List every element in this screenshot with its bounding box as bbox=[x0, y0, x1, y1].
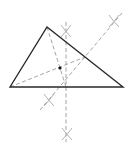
arc-mark-upper-right-icon bbox=[109, 15, 119, 27]
median-from-top-vertex bbox=[47, 27, 66, 87]
triangle-construction-diagram bbox=[0, 0, 136, 148]
arc-mark-bottom-icon bbox=[62, 128, 72, 140]
arc-mark-lower-left-icon bbox=[44, 94, 54, 106]
median-from-left-vertex bbox=[10, 57, 85, 87]
centroid-point bbox=[58, 66, 61, 69]
perpendicular-bisector-right-side bbox=[40, 13, 122, 110]
construction-lines bbox=[10, 13, 122, 142]
